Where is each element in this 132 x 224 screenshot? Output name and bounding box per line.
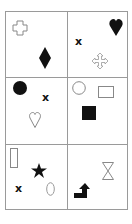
cross-outline-icon — [12, 20, 28, 36]
cell-r1c1 — [6, 12, 67, 77]
x-mark: x — [42, 92, 49, 103]
hourglass-outline-icon — [102, 162, 114, 180]
cell-r3c1: x — [6, 145, 67, 211]
circle-filled-icon — [13, 81, 27, 95]
cell-r3c2 — [68, 145, 128, 211]
circle-outline-icon — [72, 81, 86, 95]
cell-r1c2: x — [68, 12, 128, 77]
puzzle-grid: x x x — [5, 11, 128, 210]
tall-rectangle-outline-icon — [10, 148, 18, 168]
star-filled-icon — [31, 163, 47, 178]
oval-outline-icon — [46, 182, 55, 196]
rectangle-outline-icon — [98, 86, 114, 98]
x-mark: x — [75, 36, 82, 47]
heart-outline-icon — [29, 112, 41, 128]
cell-r2c2 — [68, 78, 128, 144]
square-filled-icon — [82, 106, 96, 120]
turn-arrow-filled-icon — [74, 183, 90, 199]
x-mark: x — [15, 183, 22, 194]
move-arrows-outline-icon — [92, 53, 108, 69]
heart-filled-icon — [109, 19, 123, 36]
diamond-filled-icon — [39, 47, 51, 69]
cell-r2c1: x — [6, 78, 67, 144]
